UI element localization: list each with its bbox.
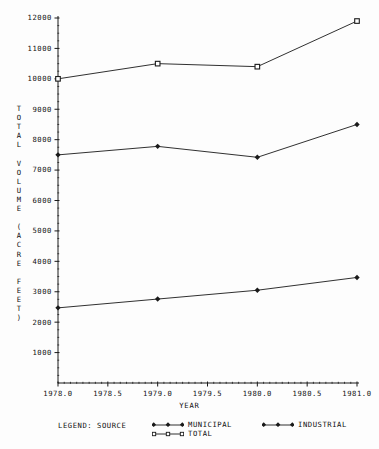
x-tick-label: 1981.0 bbox=[327, 389, 379, 398]
legend-label-total: TOTAL bbox=[188, 429, 212, 438]
legend-item-industrial: INDUSTRIAL bbox=[262, 420, 347, 429]
y-axis-title-char: T bbox=[14, 304, 24, 313]
series-industrial bbox=[55, 275, 359, 311]
y-axis-title-char: E bbox=[14, 259, 24, 268]
legend-marker-total bbox=[152, 430, 184, 438]
chart-figure: 1000200030004000500060007000800090001000… bbox=[0, 0, 379, 449]
y-axis-title-char: T bbox=[14, 122, 24, 131]
axes-lines bbox=[58, 16, 359, 383]
y-axis-title-char: ) bbox=[14, 313, 24, 322]
series-total bbox=[56, 19, 360, 81]
y-axis-title-char: A bbox=[14, 131, 24, 140]
legend-item-municipal: MUNICIPAL bbox=[152, 420, 232, 429]
y-tick-label: 2000 bbox=[0, 318, 52, 327]
legend-item-total: TOTAL bbox=[152, 429, 212, 438]
y-axis-title-char: M bbox=[14, 195, 24, 204]
y-axis-title-char: U bbox=[14, 186, 24, 195]
y-axis-title-char: L bbox=[14, 177, 24, 186]
y-axis-title-char bbox=[14, 268, 24, 277]
y-tick-label: 9000 bbox=[0, 105, 52, 114]
plot-canvas bbox=[0, 0, 379, 449]
legend-label-industrial: INDUSTRIAL bbox=[298, 420, 347, 429]
y-axis-title-char: T bbox=[14, 104, 24, 113]
y-axis-title-char bbox=[14, 213, 24, 222]
y-axis-title: TOTAL VOLUME (ACRE FEET) bbox=[14, 104, 24, 322]
y-axis-title-char: E bbox=[14, 204, 24, 213]
y-tick-label: 10000 bbox=[0, 74, 52, 83]
y-tick-label: 5000 bbox=[0, 226, 52, 235]
y-tick-label: 7000 bbox=[0, 165, 52, 174]
legend-marker-industrial bbox=[262, 421, 294, 429]
y-axis-title-char: R bbox=[14, 250, 24, 259]
axis-ticks bbox=[55, 18, 358, 387]
y-tick-label: 8000 bbox=[0, 135, 52, 144]
y-axis-title-char: O bbox=[14, 168, 24, 177]
y-axis-title-char: ( bbox=[14, 222, 24, 231]
y-tick-label: 6000 bbox=[0, 196, 52, 205]
legend-title: LEGEND: SOURCE bbox=[58, 421, 126, 430]
y-tick-label: 4000 bbox=[0, 257, 52, 266]
y-axis-title-char: A bbox=[14, 231, 24, 240]
y-tick-label: 12000 bbox=[0, 13, 52, 22]
x-axis-title: YEAR bbox=[0, 401, 379, 410]
y-axis-title-char: C bbox=[14, 240, 24, 249]
legend-marker-municipal bbox=[152, 421, 184, 429]
y-tick-label: 1000 bbox=[0, 348, 52, 357]
y-axis-title-char: E bbox=[14, 286, 24, 295]
y-axis-title-char: E bbox=[14, 295, 24, 304]
y-axis-title-char: F bbox=[14, 277, 24, 286]
y-axis-title-char: O bbox=[14, 113, 24, 122]
data-series-group bbox=[55, 19, 359, 311]
y-axis-title-char: V bbox=[14, 159, 24, 168]
y-tick-label: 11000 bbox=[0, 44, 52, 53]
y-axis-title-char bbox=[14, 149, 24, 158]
y-axis-title-char: L bbox=[14, 140, 24, 149]
legend-label-municipal: MUNICIPAL bbox=[188, 420, 232, 429]
y-tick-label: 3000 bbox=[0, 287, 52, 296]
series-municipal bbox=[55, 122, 359, 160]
chart-legend: LEGEND: SOURCE MUNICIPAL bbox=[0, 417, 379, 443]
